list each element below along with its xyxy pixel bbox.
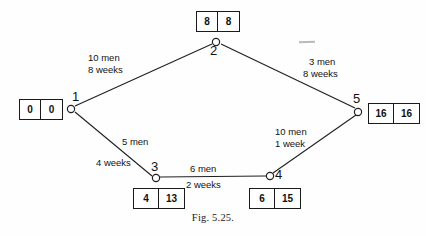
node-circle-1 xyxy=(67,105,74,112)
edge-label-1-3-men: 5 men xyxy=(122,136,148,148)
figure-caption: Fig. 5.25. xyxy=(0,212,426,223)
node-label-1: 1 xyxy=(72,90,79,103)
edge-label-1-3-duration: 4 weeks xyxy=(96,157,131,169)
earliest-time-node-5: 16 xyxy=(369,104,394,123)
time-box-node-2: 8 8 xyxy=(196,11,240,32)
node-label-3: 3 xyxy=(151,160,158,173)
edge-label-2-5-duration: 8 weeks xyxy=(303,68,338,80)
edge-label-3-4-men: 6 men xyxy=(190,163,216,175)
latest-time-node-5: 16 xyxy=(394,104,419,123)
node-circle-5 xyxy=(354,108,361,115)
node-circle-3 xyxy=(152,174,159,181)
latest-time-node-2: 8 xyxy=(218,12,239,31)
node-label-4: 4 xyxy=(275,168,282,181)
node-label-5: 5 xyxy=(353,92,360,105)
time-box-node-3: 4 13 xyxy=(133,188,185,209)
edge-label-3-4-duration: 2 weeks xyxy=(186,179,221,191)
time-box-node-1: 0 0 xyxy=(19,99,63,120)
node-label-2: 2 xyxy=(210,44,217,57)
latest-time-node-3: 13 xyxy=(159,189,184,208)
network-diagram-figure: 1 2 3 4 5 8 8 0 0 16 16 4 13 6 15 10 men… xyxy=(0,0,426,236)
time-box-node-4: 6 15 xyxy=(249,188,301,209)
node-circle-4 xyxy=(266,172,273,179)
earliest-time-node-3: 4 xyxy=(134,189,159,208)
edge-label-2-5-men: 3 men xyxy=(309,56,335,68)
earliest-time-node-4: 6 xyxy=(250,189,275,208)
latest-time-node-1: 0 xyxy=(41,100,62,119)
latest-time-node-4: 15 xyxy=(275,189,300,208)
edge-label-1-2-men: 10 men xyxy=(88,52,120,64)
edge-label-4-5-men: 10 men xyxy=(275,126,307,138)
edge-3-4 xyxy=(160,176,266,177)
earliest-time-node-2: 8 xyxy=(197,12,218,31)
network-graph-svg xyxy=(0,0,426,236)
earliest-time-node-1: 0 xyxy=(20,100,41,119)
time-box-node-5: 16 16 xyxy=(368,103,420,124)
edge-label-4-5-duration: 1 week xyxy=(275,138,305,150)
edge-label-1-2-duration: 8 weeks xyxy=(88,64,123,76)
